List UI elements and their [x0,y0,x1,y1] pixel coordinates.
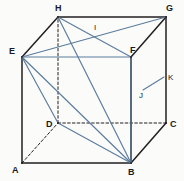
diagonal-JK [143,77,164,90]
diagonal-EB [22,57,131,163]
vertex-label-f: F [130,46,136,55]
cube-figure-svg [0,0,184,181]
edge-EH [22,17,58,57]
edge-BC [131,123,166,163]
vertex-label-b: B [128,168,135,177]
vertex-dot-h [57,16,59,18]
diagonal-ED [22,57,58,123]
vertex-label-g: G [166,4,173,13]
vertex-dot-a [21,162,23,164]
vertex-dot-b [130,162,132,164]
vertex-dot-g [165,16,167,18]
vertex-label-h: H [55,4,62,13]
vertex-dot-e [21,56,23,58]
point-label-i: I [94,24,96,32]
vertex-dot-f [130,56,132,58]
point-label-k: K [168,74,173,82]
edge-FG [131,17,166,57]
diagonal-lines-group [22,17,166,163]
vertex-dot-d [57,122,59,124]
diagonal-DB [58,123,131,163]
point-label-j: J [139,92,143,100]
vertex-label-c: C [170,120,177,129]
vertex-label-d: D [46,120,53,129]
vertex-label-a: A [12,166,19,175]
cube-diagram: ABCDEFGHIJK [0,0,184,181]
vertex-label-e: E [9,47,15,56]
hidden-edge-AD [22,123,58,163]
vertex-dot-c [165,122,167,124]
diagonal-HB [58,17,131,163]
